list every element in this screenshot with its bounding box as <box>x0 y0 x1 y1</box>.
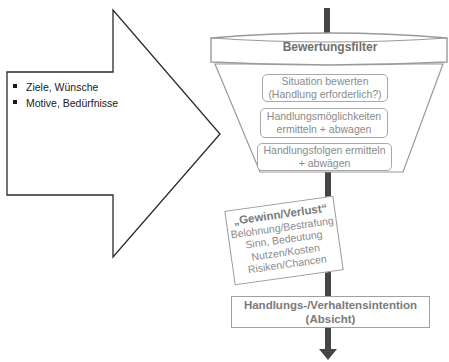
arrow-down-icon <box>319 349 337 360</box>
intention-line2: (Absicht) <box>232 312 429 326</box>
filter-step-consequences: Handlungsfolgen ermitteln + abwägen <box>257 143 392 171</box>
bullet-icon <box>13 84 17 88</box>
stem-bottom <box>325 326 331 351</box>
filter-step-situation: Situation bewerten (Handlung erforderlic… <box>262 74 388 102</box>
step-line: (Handlung erforderlich?) <box>263 88 387 101</box>
filter-title: Bewertungsfilter <box>214 40 446 54</box>
list-item-label: Ziele, Wünsche <box>26 81 98 93</box>
filter-step-options: Handlungsmöglichkeiten ermitteln + abwag… <box>260 108 388 138</box>
gain-loss-box: „Gewinn/Verlust“ Belohnung/Bestrafung Si… <box>224 196 343 286</box>
step-line: ermitteln + abwagen <box>261 123 387 136</box>
bullet-icon <box>13 100 17 104</box>
input-arrow <box>7 10 220 257</box>
list-item: Motive, Bedürfnisse <box>13 95 118 111</box>
motives-list: Ziele, Wünsche Motive, Bedürfnisse <box>13 79 118 111</box>
list-item: Ziele, Wünsche <box>13 79 118 95</box>
step-line: + abwägen <box>258 157 391 170</box>
step-line: Handlungsfolgen ermitteln <box>258 144 391 157</box>
intention-line1: Handlungs-/Verhaltensintention <box>232 298 429 312</box>
list-item-label: Motive, Bedürfnisse <box>26 97 118 109</box>
step-line: Situation bewerten <box>263 75 387 88</box>
intention-box: Handlungs-/Verhaltensintention (Absicht) <box>231 296 430 328</box>
step-line: Handlungsmöglichkeiten <box>261 110 387 123</box>
